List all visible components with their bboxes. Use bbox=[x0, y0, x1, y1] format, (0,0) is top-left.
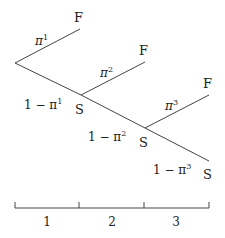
branch-success-3 bbox=[145, 128, 209, 161]
prob-success-1: 1 − π1 bbox=[24, 97, 62, 112]
branch-success-2 bbox=[81, 95, 145, 128]
decision-tree-diagram: F F F S S S π1 π2 π3 1 − π1 1 − π2 1 − π… bbox=[0, 0, 225, 238]
prob-fail-3: π3 bbox=[164, 98, 178, 113]
success-label-1: S bbox=[75, 102, 84, 117]
timeline-label-2: 2 bbox=[108, 215, 116, 229]
prob-fail-2: π2 bbox=[99, 65, 113, 80]
prob-success-3: 1 − π3 bbox=[153, 162, 191, 177]
branch-fail-2 bbox=[81, 62, 145, 95]
prob-fail-1: π1 bbox=[34, 33, 48, 48]
success-label-2: S bbox=[139, 135, 148, 150]
branch-success-1 bbox=[15, 63, 81, 95]
prob-success-2: 1 − π2 bbox=[88, 129, 126, 144]
fail-label-2: F bbox=[139, 43, 148, 58]
success-label-3: S bbox=[203, 167, 212, 182]
timeline: 1 2 3 bbox=[15, 202, 209, 229]
timeline-label-3: 3 bbox=[172, 215, 180, 229]
timeline-label-1: 1 bbox=[43, 215, 51, 229]
fail-label-3: F bbox=[203, 76, 212, 91]
fail-label-1: F bbox=[74, 10, 83, 25]
